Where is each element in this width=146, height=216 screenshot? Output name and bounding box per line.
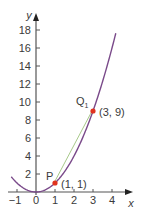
- y-tick-label: 18: [19, 24, 31, 36]
- y-tick-label: 16: [19, 42, 31, 54]
- point-q1-coord-label: (3, 9): [99, 106, 125, 118]
- y-tick-label: 12: [19, 78, 31, 90]
- x-tick-label: −1: [9, 194, 22, 206]
- x-tick-label: 2: [71, 194, 77, 206]
- point-p-name-label: P: [46, 170, 53, 182]
- y-tick-label: 10: [19, 96, 31, 108]
- y-tick-label: 8: [25, 114, 31, 126]
- y-axis-label: y: [25, 9, 33, 21]
- x-tick-label: 4: [109, 194, 115, 206]
- x-tick-label: 1: [52, 194, 58, 206]
- x-tick-label: 3: [90, 194, 96, 206]
- x-tick-label: 0: [33, 194, 39, 206]
- x-axis-arrow-icon: [125, 189, 133, 195]
- point-p-coord-label: (1, 1): [61, 178, 87, 190]
- point-q1-subscript: 1: [85, 102, 89, 109]
- y-tick-label: 4: [25, 150, 31, 162]
- parabola-chart: xy −10123424681012141618 (1, 1)P(3, 9)Q1: [0, 0, 146, 216]
- secant-line: [54, 111, 92, 183]
- y-tick-label: 2: [25, 168, 31, 180]
- x-axis-label: x: [127, 197, 134, 209]
- y-tick-label: 14: [19, 60, 31, 72]
- y-tick-label: 6: [25, 132, 31, 144]
- point-q1-marker: [90, 108, 95, 113]
- point-q1-name-label: Q1: [76, 95, 89, 109]
- y-axis-arrow-icon: [33, 13, 39, 21]
